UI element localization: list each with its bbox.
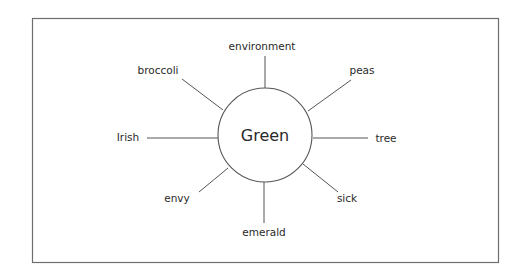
node-label-envy: envy (164, 193, 190, 204)
node-label-peas: peas (349, 65, 374, 76)
spoke-broccoli (182, 79, 223, 110)
node-label-environment: environment (229, 41, 296, 52)
node-label-irish: Irish (117, 132, 139, 143)
node-label-broccoli: broccoli (138, 65, 179, 76)
node-label-emerald: emerald (242, 227, 285, 238)
node-label-tree: tree (375, 133, 396, 144)
center-label: Green (241, 128, 289, 144)
spoke-sick (303, 164, 338, 192)
spoke-peas (308, 80, 351, 111)
node-label-sick: sick (337, 193, 357, 204)
spoke-envy (199, 168, 228, 192)
